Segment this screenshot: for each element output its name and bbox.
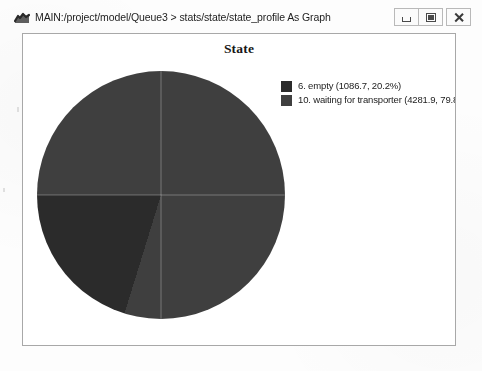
chart-legend: 6. empty (1086.7, 20.2%)10. waiting for … bbox=[281, 80, 456, 108]
pie-divider-vertical bbox=[161, 71, 162, 319]
chart-window: MAIN:/project/model/Queue3 > stats/state… bbox=[8, 6, 474, 361]
maximize-button[interactable] bbox=[418, 8, 443, 26]
window-title: MAIN:/project/model/Queue3 > stats/state… bbox=[35, 11, 331, 23]
window-controls bbox=[395, 8, 471, 26]
window-titlebar[interactable]: MAIN:/project/model/Queue3 > stats/state… bbox=[8, 6, 474, 33]
pie-divider-horizontal bbox=[37, 195, 285, 196]
minimize-icon bbox=[402, 17, 411, 22]
minimize-button[interactable] bbox=[394, 8, 419, 26]
legend-item[interactable]: 6. empty (1086.7, 20.2%) bbox=[281, 80, 456, 93]
titlebar-left-group: MAIN:/project/model/Queue3 > stats/state… bbox=[14, 10, 331, 23]
legend-label: 10. waiting for transporter (4281.9, 79.… bbox=[298, 94, 456, 106]
legend-swatch bbox=[281, 81, 292, 92]
pie-chart[interactable] bbox=[37, 71, 285, 319]
legend-swatch bbox=[281, 95, 292, 106]
legend-label: 6. empty (1086.7, 20.2%) bbox=[298, 80, 401, 92]
chart-panel: State 6. empty (1086.7, 20.2%)10. waitin… bbox=[22, 33, 456, 346]
legend-item[interactable]: 10. waiting for transporter (4281.9, 79.… bbox=[281, 94, 456, 107]
chart-app-icon bbox=[14, 11, 30, 24]
pie-disc[interactable] bbox=[37, 71, 285, 319]
close-icon bbox=[453, 12, 464, 23]
close-button[interactable] bbox=[446, 8, 471, 26]
chart-title: State bbox=[23, 41, 455, 57]
maximize-icon bbox=[426, 13, 436, 22]
